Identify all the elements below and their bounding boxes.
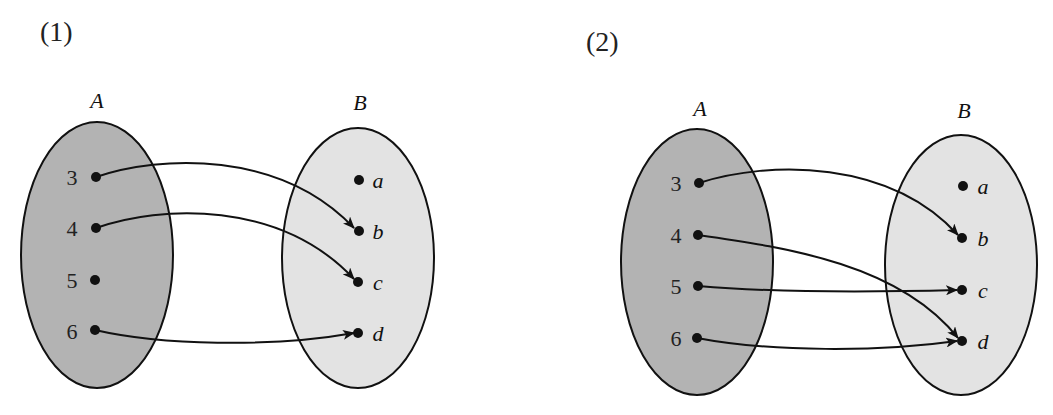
set-b-element: b — [978, 226, 989, 251]
set-a-ellipse — [621, 129, 773, 395]
dot-4 — [693, 230, 703, 240]
set-a-label: A — [691, 96, 707, 121]
set-a-element: 5 — [67, 268, 78, 293]
set-b: B a b c d — [885, 98, 1037, 395]
dot-6 — [692, 333, 702, 343]
dot-d — [353, 328, 363, 338]
dot-3 — [694, 178, 704, 188]
mapping-diagram: A 3 4 5 6 B a b c d — [0, 0, 527, 415]
set-a-ellipse — [21, 122, 173, 388]
set-b-label: B — [957, 98, 970, 123]
set-a-element: 4 — [67, 216, 78, 241]
set-b-ellipse — [282, 128, 434, 388]
set-b-label: B — [353, 90, 366, 115]
set-a: A 3 4 5 6 — [621, 96, 773, 395]
dot-6 — [90, 325, 100, 335]
set-b-element: d — [978, 329, 990, 354]
dot-5 — [693, 281, 703, 291]
diagram-panel-2: (2) A 3 4 5 6 B a b c d — [527, 0, 1053, 415]
set-a-element: 5 — [671, 274, 682, 299]
dot-c — [353, 277, 363, 287]
dot-5 — [90, 275, 100, 285]
set-a-element: 4 — [671, 223, 682, 248]
dot-c — [957, 285, 967, 295]
dot-d — [957, 336, 967, 346]
set-a-element: 3 — [67, 165, 78, 190]
set-b-element: d — [373, 321, 385, 346]
dot-b — [957, 233, 967, 243]
diagram-panel-1: (1) A 3 4 5 6 B a b c d — [0, 0, 527, 415]
set-a-element: 3 — [671, 171, 682, 196]
set-b-element: b — [373, 219, 384, 244]
dot-a — [958, 181, 968, 191]
set-b-element: a — [373, 168, 384, 193]
dot-b — [354, 226, 364, 236]
dot-3 — [91, 172, 101, 182]
set-a-element: 6 — [671, 326, 682, 351]
set-b-ellipse — [885, 135, 1037, 395]
set-b-element: c — [373, 270, 383, 295]
dot-4 — [91, 223, 101, 233]
mapping-diagram: A 3 4 5 6 B a b c d — [527, 0, 1053, 415]
dot-a — [354, 175, 364, 185]
set-a: A 3 4 5 6 — [21, 88, 173, 388]
set-a-label: A — [88, 88, 104, 113]
set-b-element: a — [978, 174, 989, 199]
set-b-element: c — [978, 278, 988, 303]
set-b: B a b c d — [282, 90, 434, 388]
set-a-element: 6 — [67, 319, 78, 344]
